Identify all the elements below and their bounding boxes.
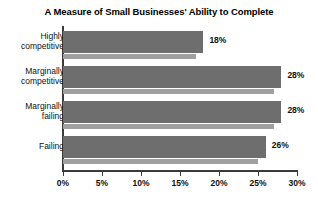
category-label: Failing: [8, 141, 64, 151]
x-tick-mark: [297, 171, 298, 176]
bar-primary: [63, 101, 281, 123]
x-tick-label: 15%: [171, 178, 188, 188]
x-tick-mark: [219, 171, 220, 176]
bar-secondary: [63, 159, 258, 164]
x-tick-label: 5%: [96, 178, 108, 188]
chart-title: A Measure of Small Businesses' Ability t…: [0, 6, 318, 17]
x-tick-mark: [258, 171, 259, 176]
bar-secondary: [63, 89, 274, 94]
plot-area: 18%28%28%26%: [63, 28, 297, 170]
bar-group: 26%: [63, 136, 297, 165]
x-tick-label: 20%: [210, 178, 227, 188]
x-tick-mark: [180, 171, 181, 176]
bar-value-label: 18%: [209, 35, 226, 45]
x-tick-label: 10%: [132, 178, 149, 188]
category-label: Marginally competitive: [8, 66, 64, 86]
category-label: Highly competitive: [8, 31, 64, 51]
bar-secondary: [63, 54, 196, 59]
bar-primary: [63, 66, 281, 88]
bar-primary: [63, 136, 266, 158]
bar-group: 28%: [63, 101, 297, 130]
bar-value-label: 28%: [287, 105, 304, 115]
bar-group: 18%: [63, 31, 297, 60]
x-tick-label: 0%: [57, 178, 69, 188]
x-tick-mark: [102, 171, 103, 176]
x-tick-mark: [141, 171, 142, 176]
x-tick-mark: [63, 171, 64, 176]
bar-value-label: 26%: [272, 140, 289, 150]
bar-primary: [63, 31, 203, 53]
category-label: Marginally failing: [8, 101, 64, 121]
x-tick-label: 25%: [249, 178, 266, 188]
bar-group: 28%: [63, 66, 297, 95]
bar-secondary: [63, 124, 274, 129]
bar-value-label: 28%: [287, 70, 304, 80]
x-tick-label: 30%: [288, 178, 305, 188]
chart-container: A Measure of Small Businesses' Ability t…: [0, 0, 318, 199]
